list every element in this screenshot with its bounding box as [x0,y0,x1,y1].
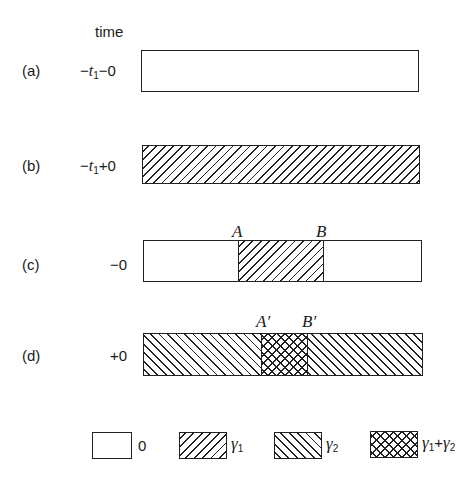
subscript: 1 [238,443,244,454]
row-label-b: (b) [22,157,40,174]
row-label-a: (a) [22,62,40,79]
legend-label-gamma2: γ2 [326,434,338,454]
row-time-d: +0 [110,347,127,364]
subscript: 2 [450,442,456,453]
legend-swatch-zero [92,432,132,459]
state-bar-c [143,240,422,282]
gamma-symbol: γ [326,434,333,453]
time-column-header: time [95,23,123,40]
row-time-c: −0 [110,256,127,273]
row-label-d: (d) [22,347,40,364]
gamma1-plus-gamma2-region [261,334,308,375]
state-bar-a [141,50,419,92]
marker-b-prime: B′ [302,312,316,332]
marker-a-prime: A′ [256,312,270,332]
state-bar-b [142,145,420,184]
row-time-b: −t1+0 [80,157,116,176]
minus-sign: − [80,157,89,174]
legend-label-zero: 0 [138,437,146,454]
gamma-symbol: γ [231,434,238,453]
state-bar-d [143,333,423,376]
time-suffix: −0 [99,62,116,79]
time-suffix: +0 [99,157,116,174]
minus-sign: − [80,62,89,79]
plus-sign: + [434,434,443,451]
gamma1-region [238,241,324,281]
marker-b: B [316,222,326,242]
subscript: 2 [333,443,339,454]
row-time-a: −t1−0 [80,62,116,81]
legend-label-gamma-sum: γ1+γ2 [422,433,455,453]
legend-swatch-gamma2 [274,432,322,459]
row-label-c: (c) [22,256,40,273]
gamma-symbol: γ [443,433,450,452]
legend-label-gamma1: γ1 [231,434,243,454]
legend-swatch-gamma-sum [370,431,418,458]
marker-a: A [232,222,242,242]
gamma-symbol: γ [422,433,429,452]
legend-swatch-gamma1 [179,432,227,459]
